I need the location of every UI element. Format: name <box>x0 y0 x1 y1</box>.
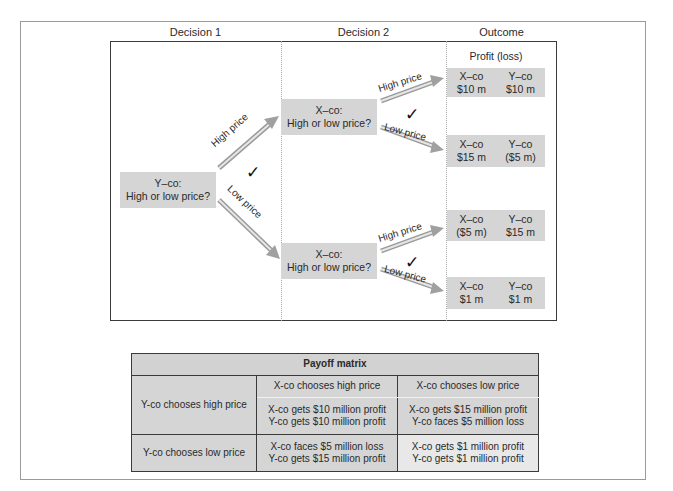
row-header-y-co-high: Y-co chooses high price <box>132 376 257 435</box>
payoff-cell-low-high: X-co faces $5 million loss Y-co gets $15… <box>257 435 398 472</box>
y-co-label: Y–co <box>509 280 533 293</box>
y-co-value: $15 m <box>506 226 535 239</box>
x-co-value: $1 m <box>460 293 483 306</box>
y-co-payoff: Y-co faces $5 million loss <box>401 416 535 429</box>
x-co-label: X–co <box>460 138 484 151</box>
x-co-value: $10 m <box>457 83 486 96</box>
row-header-y-co-low: Y-co chooses low price <box>132 435 257 472</box>
outcome-low-high: X–co($5 m) Y–co$15 m <box>447 210 545 241</box>
y-co-payoff: Y-co gets $1 million profit <box>401 453 535 466</box>
x-co-payoff: X-co gets $15 million profit <box>401 404 535 417</box>
x-co-payoff: X-co gets $1 million profit <box>401 441 535 454</box>
outcome-high-low: X–co$15 m Y–co($5 m) <box>447 135 545 167</box>
col-header-x-co-high: X-co chooses high price <box>257 376 398 398</box>
x-co-decision-node-upper: X–co: High or low price? <box>281 99 377 135</box>
payoff-matrix-table: Payoff matrix Y-co chooses high price X-… <box>131 353 539 472</box>
y-co-payoff: Y-co gets $15 million profit <box>260 453 394 466</box>
x-co-label: X–co <box>460 70 484 83</box>
node-line-1: Y–co: <box>120 177 216 190</box>
y-co-decision-node: Y–co: High or low price? <box>120 172 216 208</box>
payoff-cell-high-high: X-co gets $10 million profit Y-co gets $… <box>257 398 398 435</box>
node-line-2: High or low price? <box>281 117 377 130</box>
y-co-value: $10 m <box>506 83 535 96</box>
x-co-value: ($5 m) <box>456 226 486 239</box>
y-co-label: Y–co <box>509 70 533 83</box>
y-co-value: ($5 m) <box>505 151 535 164</box>
payoff-cell-low-low-equilibrium: X-co gets $1 million profit Y-co gets $1… <box>398 435 539 472</box>
profit-loss-label: Profit (loss) <box>447 50 545 62</box>
payoff-cell-high-low: X-co gets $15 million profit Y-co faces … <box>398 398 539 435</box>
y-co-value: $1 m <box>509 293 532 306</box>
x-co-payoff: X-co faces $5 million loss <box>260 441 394 454</box>
col-header-x-co-low: X-co chooses low price <box>398 376 539 398</box>
outcome-low-low: X–co$1 m Y–co$1 m <box>447 277 545 309</box>
node-line-2: High or low price? <box>281 261 377 274</box>
chosen-check-icon: ✓ <box>405 252 419 273</box>
x-co-label: X–co <box>460 213 484 226</box>
node-line-1: X–co: <box>281 248 377 261</box>
node-line-1: X–co: <box>281 104 377 117</box>
x-co-payoff: X-co gets $10 million profit <box>260 404 394 417</box>
x-co-value: $15 m <box>457 151 486 164</box>
y-co-payoff: Y-co gets $10 million profit <box>260 416 394 429</box>
x-co-label: X–co <box>460 280 484 293</box>
outcome-high-high: X–co$10 m Y–co$10 m <box>447 68 545 97</box>
y-co-label: Y–co <box>509 138 533 151</box>
x-co-decision-node-lower: X–co: High or low price? <box>281 243 377 279</box>
chosen-check-icon: ✓ <box>405 104 419 125</box>
chosen-check-icon: ✓ <box>246 162 260 183</box>
y-co-label: Y–co <box>509 213 533 226</box>
node-line-2: High or low price? <box>120 190 216 203</box>
payoff-matrix-title: Payoff matrix <box>132 354 539 376</box>
